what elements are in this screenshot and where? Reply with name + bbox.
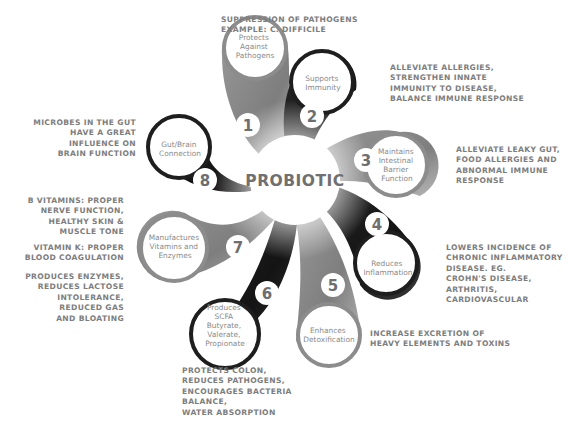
note-petal-2: ALLEVIATE ALLERGIES, STRENGTHEN INNATE I… (390, 63, 524, 105)
note-petal-1: SUPPRESSION OF PATHOGENS EXAMPLE: C. DIF… (221, 15, 358, 36)
note-petal-3: ALLEVIATE LEAKY GUT, FOOD ALLERGIES AND … (456, 145, 560, 187)
number-6: 6 (262, 285, 272, 303)
petal-2-label: Supports Immunity (305, 74, 341, 92)
petal-6-label: Produces SCFA Butyrate, Valerate, Propio… (205, 303, 245, 348)
note-petal-7-vitamin-k: VITAMIN K: PROPER BLOOD COAGULATION (25, 243, 124, 264)
note-petal-6: PROTECTS COLON, REDUCES PATHOGENS, ENCOU… (182, 366, 292, 418)
petal-5-label: Enhances Detoxification (303, 326, 355, 344)
number-4: 4 (372, 216, 382, 234)
petal-8-label: Gut/Brain Connection (159, 140, 201, 158)
petal-1-label: Protects Against Pathogens (236, 33, 275, 60)
center-title: PROBIOTIC (245, 172, 344, 190)
number-3: 3 (361, 152, 371, 170)
number-8: 8 (200, 172, 210, 190)
petal-3-label: Maintains Intestinal Barrier Function (378, 147, 416, 183)
number-7: 7 (233, 239, 243, 257)
note-petal-8: MICROBES IN THE GUT HAVE A GREAT INFLUEN… (33, 118, 136, 160)
number-2: 2 (307, 108, 317, 126)
note-petal-4: LOWERS INCIDENCE OF CHRONIC INFLAMMATORY… (446, 243, 563, 305)
note-petal-5: INCREASE EXCRETION OF HEAVY ELEMENTS AND… (370, 329, 510, 350)
note-petal-7-b-vitamins: B VITAMINS: PROPER NERVE FUNCTION, HEALT… (28, 196, 124, 238)
number-1: 1 (243, 117, 253, 135)
note-petal-7-enzymes: PRODUCES ENZYMES, REDUCES LACTOSE INTOLE… (25, 272, 124, 324)
number-5: 5 (328, 277, 338, 295)
